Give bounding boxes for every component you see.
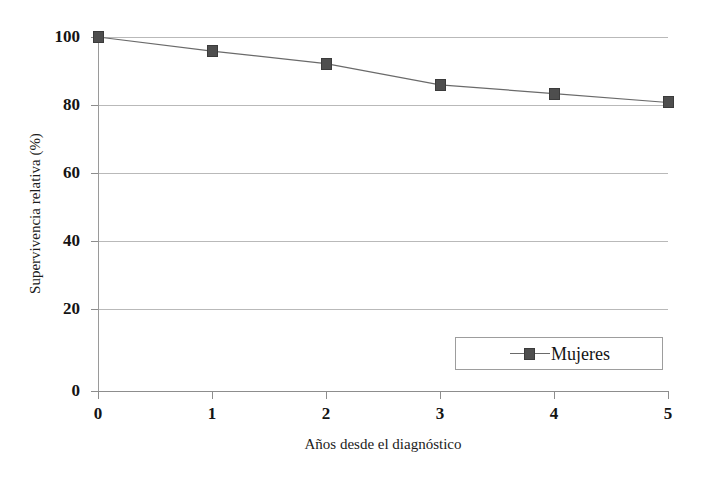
data-point-marker — [435, 79, 446, 91]
data-point-marker — [207, 45, 218, 57]
legend-label-mujeres: Mujeres — [551, 345, 610, 363]
data-point-marker — [549, 88, 560, 100]
x-axis-title: Años desde el diagnóstico — [98, 436, 668, 453]
relative-survival-line-chart: 100 80 60 40 20 0 0 1 2 3 4 5 Superviven… — [0, 0, 704, 490]
data-point-marker — [321, 58, 332, 70]
data-point-marker — [93, 31, 104, 43]
legend[interactable]: Mujeres — [455, 337, 663, 370]
square-marker-swatch — [510, 348, 550, 360]
data-point-marker — [663, 96, 674, 108]
series-line-mujeres — [0, 0, 704, 490]
y-axis-title: Supervivencia relativa (%) — [27, 99, 44, 329]
legend-entry-mujeres[interactable]: Mujeres — [456, 338, 664, 369]
